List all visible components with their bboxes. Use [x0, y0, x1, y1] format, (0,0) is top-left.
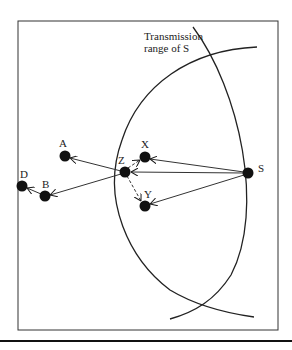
label-x: X	[141, 138, 149, 150]
node-s	[243, 168, 254, 179]
node-y	[140, 201, 151, 212]
edge-z-b	[50, 174, 121, 195]
label-d: D	[20, 168, 28, 180]
label-a: A	[59, 137, 67, 149]
node-a	[60, 151, 71, 162]
range-caption-line2: range of S	[144, 42, 189, 54]
range-arc-inner	[115, 47, 257, 317]
edge-b-d	[27, 188, 41, 194]
node-d	[17, 181, 28, 192]
label-y: Y	[144, 188, 152, 200]
transmission-range-diagram: Transmission range of S S Z X Y A B D	[0, 0, 292, 350]
node-z	[120, 167, 131, 178]
label-s: S	[258, 162, 264, 174]
edge-s-z	[131, 172, 244, 173]
edge-z-a	[70, 158, 121, 171]
edge-z-x-dashed	[128, 160, 140, 168]
edge-z-y-dashed	[127, 176, 141, 201]
edge-s-y	[150, 175, 244, 204]
edge-s-x	[150, 159, 244, 172]
label-z: Z	[118, 154, 125, 166]
range-caption-line1: Transmission	[144, 30, 203, 42]
label-b: B	[42, 178, 49, 190]
edges	[27, 158, 244, 204]
node-b	[40, 191, 51, 202]
diagram-frame	[18, 21, 278, 330]
node-x	[140, 152, 151, 163]
